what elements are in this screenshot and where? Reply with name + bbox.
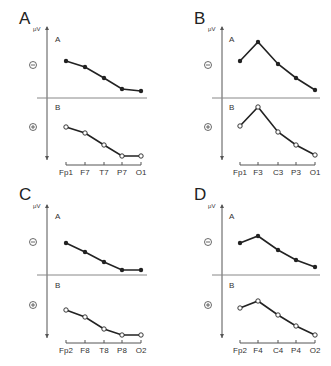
series-label-b: B bbox=[55, 103, 60, 112]
plus-sign-icon bbox=[205, 302, 212, 309]
tick-label: O2 bbox=[136, 346, 147, 355]
arrow-up-icon bbox=[220, 204, 224, 208]
tick-label: F8 bbox=[80, 346, 90, 355]
arrow-up-icon bbox=[45, 26, 49, 30]
series-label-b: B bbox=[229, 281, 234, 290]
tick-label: P3 bbox=[291, 168, 301, 177]
minus-sign-icon bbox=[205, 239, 212, 246]
figure: A μV A B Fp1 F7 T7 P7 O1 B μ bbox=[0, 0, 331, 366]
series-b-line bbox=[240, 301, 315, 335]
panel-letter: C bbox=[19, 185, 31, 204]
plus-sign-icon bbox=[205, 124, 212, 131]
series-label-a: A bbox=[55, 212, 61, 221]
tick-label: C4 bbox=[273, 346, 284, 355]
series-label-b: B bbox=[55, 281, 60, 290]
panel-letter: A bbox=[19, 9, 31, 28]
unit-label: μV bbox=[208, 26, 215, 32]
tick-label: F4 bbox=[253, 346, 263, 355]
tick-label: O2 bbox=[310, 346, 321, 355]
panel-b: B μV A B Fp1 F3 C3 P3 O1 bbox=[194, 9, 321, 177]
x-axis bbox=[240, 340, 315, 343]
series-label-a: A bbox=[55, 35, 61, 44]
arrow-down-icon bbox=[220, 334, 224, 338]
unit-label: μV bbox=[208, 203, 215, 209]
series-b-markers bbox=[64, 308, 143, 337]
series-label-a: A bbox=[229, 212, 235, 221]
minus-sign-icon bbox=[30, 62, 37, 69]
tick-label: O1 bbox=[136, 168, 147, 177]
series-label-a: A bbox=[229, 35, 235, 44]
tick-label: F3 bbox=[253, 168, 263, 177]
arrow-up-icon bbox=[45, 204, 49, 208]
series-a-markers bbox=[64, 241, 143, 272]
tick-label: Fp1 bbox=[59, 168, 73, 177]
minus-sign-icon bbox=[205, 62, 212, 69]
panel-letter: D bbox=[194, 185, 206, 204]
unit-label: μV bbox=[33, 203, 40, 209]
panel-letter: B bbox=[194, 9, 205, 28]
arrow-up-icon bbox=[220, 26, 224, 30]
arrow-down-icon bbox=[45, 334, 49, 338]
tick-label: Fp2 bbox=[59, 346, 73, 355]
x-axis bbox=[66, 340, 141, 343]
panel-a: A μV A B Fp1 F7 T7 P7 O1 bbox=[19, 9, 147, 177]
series-a-line bbox=[66, 243, 141, 270]
panel-d: D μV A B Fp2 F4 C4 P4 O2 bbox=[194, 185, 321, 355]
tick-label: T8 bbox=[99, 346, 109, 355]
plus-sign-icon bbox=[30, 302, 37, 309]
x-axis bbox=[240, 162, 315, 165]
tick-label: O1 bbox=[310, 168, 321, 177]
tick-label: Fp2 bbox=[233, 346, 247, 355]
unit-label: μV bbox=[33, 26, 40, 32]
series-b-line bbox=[66, 127, 141, 156]
plus-sign-icon bbox=[30, 124, 37, 131]
tick-label: P7 bbox=[117, 168, 127, 177]
tick-label: P8 bbox=[117, 346, 127, 355]
tick-label: F7 bbox=[80, 168, 90, 177]
x-axis bbox=[66, 162, 141, 165]
tick-label: C3 bbox=[273, 168, 284, 177]
minus-sign-icon bbox=[30, 239, 37, 246]
tick-label: P4 bbox=[291, 346, 301, 355]
tick-label: Fp1 bbox=[233, 168, 247, 177]
tick-label: T7 bbox=[99, 168, 109, 177]
panel-c: C μV A B Fp2 F8 T8 P8 O2 bbox=[19, 185, 147, 355]
arrow-down-icon bbox=[45, 156, 49, 160]
arrow-down-icon bbox=[220, 156, 224, 160]
series-label-b: B bbox=[229, 103, 234, 112]
